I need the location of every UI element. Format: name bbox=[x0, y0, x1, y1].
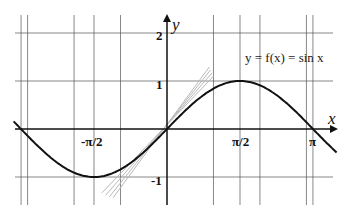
x-tick-neg-pi-half: -π/2 bbox=[81, 134, 103, 149]
x-axis-label: x bbox=[327, 109, 336, 128]
y-tick-neg1: -1 bbox=[151, 173, 162, 188]
y-axis-arrow-icon bbox=[163, 14, 171, 22]
y-axis-label: y bbox=[170, 15, 180, 34]
function-label: y = f(x) = sin x bbox=[245, 50, 324, 65]
y-tick-2: 2 bbox=[156, 28, 163, 43]
sine-chart: y x 2 1 -1 -π/2 π/2 π y = f(x) = sin x bbox=[0, 0, 348, 223]
x-tick-pi-half: π/2 bbox=[232, 134, 249, 149]
x-tick-pi: π bbox=[309, 134, 316, 149]
axes bbox=[15, 14, 338, 205]
grid bbox=[15, 15, 333, 205]
y-tick-1: 1 bbox=[156, 77, 163, 92]
